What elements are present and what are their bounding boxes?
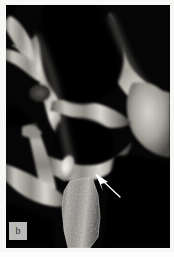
figure-panel: b xyxy=(0,0,174,257)
annotation-layer xyxy=(6,5,170,248)
panel-letter-badge: b xyxy=(9,222,27,240)
radiograph-image xyxy=(6,5,170,248)
pointer-arrow xyxy=(95,173,120,197)
radiograph-plate-frame: b xyxy=(0,0,174,252)
